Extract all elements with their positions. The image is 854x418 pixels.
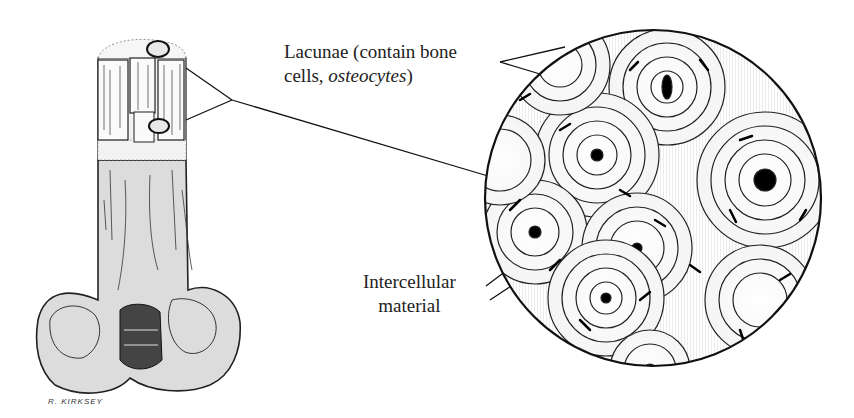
- label-intercellular-line1: Intercellular: [363, 270, 456, 294]
- label-lacunae-line2: cells, osteocytes): [284, 64, 457, 88]
- osteon-marker-bottom: [149, 119, 169, 133]
- label-lacunae: Lacunae (contain bone cells, osteocytes): [284, 40, 457, 88]
- label-lacunae-prefix: cells,: [284, 65, 328, 86]
- bone-diagram: Lacunae (contain bone cells, osteocytes)…: [0, 0, 854, 418]
- label-osteocytes: osteocytes: [328, 65, 406, 86]
- label-intercellular-line2: material: [363, 294, 456, 318]
- intercondylar-fossa: [120, 304, 162, 369]
- label-lacunae-suffix: ): [406, 65, 412, 86]
- artist-signature: R. KIRKSEY: [48, 397, 103, 406]
- osteons: [455, 15, 833, 410]
- femur-illustration: [37, 39, 241, 393]
- label-intercellular-material: Intercellular material: [363, 270, 456, 318]
- magnified-cross-section: [455, 15, 833, 410]
- label-lacunae-line1: Lacunae (contain bone: [284, 40, 457, 64]
- osteon-marker-top: [147, 41, 169, 57]
